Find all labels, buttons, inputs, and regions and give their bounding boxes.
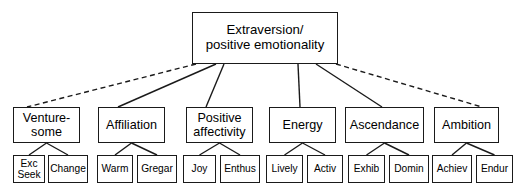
node-activ: Activ xyxy=(307,155,343,183)
edge-affiliation-to-gregar xyxy=(132,143,158,155)
node-venturesome: Venture- some xyxy=(13,107,80,143)
edge-ambition-to-endur xyxy=(467,143,495,155)
node-exhib: Exhib xyxy=(348,155,385,183)
node-ambition: Ambition xyxy=(434,107,499,143)
node-positive-affectivity: Positive affectivity xyxy=(186,107,253,143)
edge-root-to-affiliation xyxy=(118,64,216,107)
edge-ascendance-to-exhib xyxy=(367,143,385,155)
edge-positive-affectivity-to-enthus xyxy=(220,143,241,155)
edge-root-to-ambition xyxy=(336,64,482,107)
edge-root-to-energy xyxy=(298,64,300,107)
edge-energy-to-lively xyxy=(285,143,303,155)
edge-venturesome-to-change xyxy=(47,143,69,155)
edge-ambition-to-achiev xyxy=(452,143,467,155)
node-warm: Warm xyxy=(97,155,133,183)
node-achiev: Achiev xyxy=(432,155,472,183)
node-affiliation: Affiliation xyxy=(98,107,165,143)
edge-positive-affectivity-to-joy xyxy=(200,143,220,155)
node-joy: Joy xyxy=(183,155,216,183)
node-energy: Energy xyxy=(269,107,336,143)
edge-venturesome-to-exc-seek xyxy=(29,143,47,155)
node-root-extraversion: Extraversion/ positive emotionality xyxy=(192,12,338,64)
node-endur: Endur xyxy=(476,155,513,183)
edge-energy-to-activ xyxy=(303,143,326,155)
node-domin: Domin xyxy=(389,155,429,183)
node-exc-seek: Exc Seek xyxy=(13,155,45,183)
node-ascendance: Ascendance xyxy=(345,107,424,143)
node-enthus: Enthus xyxy=(220,155,260,183)
node-gregar: Gregar xyxy=(137,155,177,183)
edge-root-to-venturesome xyxy=(27,64,196,107)
edge-affiliation-to-warm xyxy=(115,143,132,155)
edge-root-to-positive-affectivity xyxy=(206,64,224,107)
edge-root-to-ascendance xyxy=(316,64,382,107)
hierarchy-diagram: Extraversion/ positive emotionalityVentu… xyxy=(0,0,515,190)
edge-ascendance-to-domin xyxy=(385,143,410,155)
node-lively: Lively xyxy=(266,155,303,183)
node-change: Change xyxy=(48,155,88,183)
